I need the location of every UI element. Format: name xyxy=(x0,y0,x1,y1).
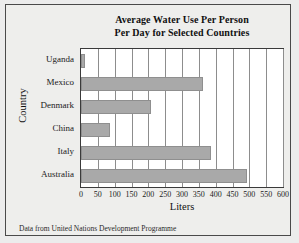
x-tick-label-50: 50 xyxy=(94,190,102,199)
bar-australia xyxy=(81,169,247,183)
plot-area xyxy=(80,48,284,188)
x-tick-label-400: 400 xyxy=(210,190,222,199)
chart-title-line-2: Per Day for Selected Countries xyxy=(80,27,284,40)
x-tick-label-450: 450 xyxy=(227,190,239,199)
x-tick-label-250: 250 xyxy=(159,190,171,199)
x-axis-title: Liters xyxy=(80,201,284,212)
bar-row xyxy=(81,118,283,141)
bar-row xyxy=(81,141,283,164)
bar-italy xyxy=(81,146,211,160)
bar-china xyxy=(81,123,110,137)
y-axis-tick-labels: UgandaMexicoDenmarkChinaItalyAustralia xyxy=(20,48,77,188)
x-tick-label-150: 150 xyxy=(126,190,138,199)
x-tick-label-350: 350 xyxy=(193,190,205,199)
y-tick-label-mexico: Mexico xyxy=(47,71,75,94)
y-tick-label-australia: Australia xyxy=(41,163,74,186)
x-tick-label-500: 500 xyxy=(243,190,255,199)
source-note: Data from United Nations Development Pro… xyxy=(19,224,176,233)
bar-row xyxy=(81,49,283,72)
x-tick-label-200: 200 xyxy=(142,190,154,199)
bar-row xyxy=(81,95,283,118)
y-tick-label-uganda: Uganda xyxy=(46,48,74,71)
x-tick-label-100: 100 xyxy=(109,190,121,199)
x-tick-label-600: 600 xyxy=(277,190,289,199)
gridline xyxy=(283,49,284,187)
bar-row xyxy=(81,164,283,187)
x-tick-label-550: 550 xyxy=(260,190,272,199)
chart-title: Average Water Use Per Person Per Day for… xyxy=(80,14,284,39)
chart-screenshot: Average Water Use Per Person Per Day for… xyxy=(0,0,299,243)
bar-series xyxy=(81,49,283,187)
bar-uganda xyxy=(81,54,85,68)
bar-mexico xyxy=(81,77,203,91)
y-tick-label-italy: Italy xyxy=(58,140,75,163)
bar-denmark xyxy=(81,100,151,114)
y-tick-label-denmark: Denmark xyxy=(41,94,75,117)
chart-page-frame: Average Water Use Per Person Per Day for… xyxy=(5,4,291,236)
chart-title-line-1: Average Water Use Per Person xyxy=(80,14,284,27)
x-tick-label-300: 300 xyxy=(176,190,188,199)
y-tick-label-china: China xyxy=(53,117,75,140)
bar-row xyxy=(81,72,283,95)
x-tick-label-0: 0 xyxy=(79,190,83,199)
